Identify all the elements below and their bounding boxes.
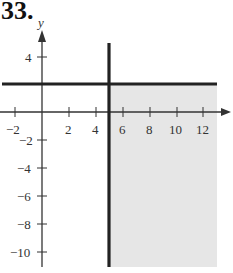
- x-tick-label: 10: [169, 122, 182, 137]
- x-tick-label: 12: [196, 122, 209, 137]
- y-axis-arrow-icon: [38, 30, 46, 42]
- region-chart: y −2 2 4 6 8 10 12 4 −2 −4 −6 −8 −10: [0, 0, 233, 273]
- x-tick-label: −2: [6, 122, 20, 137]
- y-tick-label: −4: [17, 161, 31, 176]
- y-tick-label: −2: [19, 133, 33, 148]
- x-tick-label: 2: [65, 122, 72, 137]
- y-axis-label: y: [36, 15, 44, 30]
- x-tick-label: 4: [92, 122, 99, 137]
- y-tick-label: −6: [17, 189, 31, 204]
- y-tick-label: −8: [17, 217, 31, 232]
- x-tick-label: 8: [146, 122, 153, 137]
- y-tick-label: −10: [10, 245, 30, 260]
- y-tick-label: 4: [25, 50, 32, 65]
- x-axis-arrow-icon: [221, 108, 231, 116]
- x-tick-label: 6: [119, 122, 126, 137]
